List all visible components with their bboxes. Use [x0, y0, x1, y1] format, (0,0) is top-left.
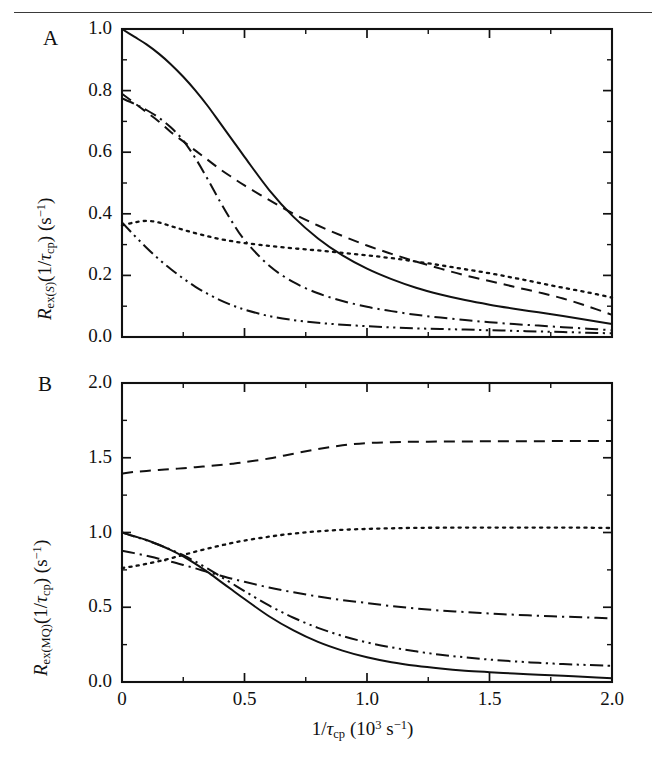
x-tick-label: 0 — [92, 688, 152, 710]
y-tick-label-a: 0.0 — [54, 325, 112, 347]
x-tick-label: 1.5 — [460, 688, 520, 710]
y-axis-label-panel-b: Rex(MQ)(1/τcp) (s−1) — [30, 540, 54, 676]
plot-frame — [122, 29, 612, 337]
y-tick-label-b: 1.0 — [54, 521, 112, 543]
x-tick-label: 0.5 — [215, 688, 275, 710]
y-tick-label-b: 1.5 — [54, 446, 112, 468]
page-rule — [14, 12, 652, 13]
curve-dash-dot-dot — [122, 222, 612, 333]
curve-solid — [122, 29, 612, 324]
plot-frame — [122, 383, 612, 682]
curve-dash-dot — [122, 551, 612, 619]
y-tick-label-a: 0.8 — [54, 79, 112, 101]
y-tick-label-b: 2.0 — [54, 371, 112, 393]
x-tick-label: 1.0 — [337, 688, 397, 710]
y-tick-label-b: 0.5 — [54, 595, 112, 617]
y-tick-label-a: 0.4 — [54, 202, 112, 224]
x-axis-label: 1/τcp (103 s−1) — [0, 718, 665, 742]
panel-label-b: B — [38, 372, 52, 397]
panel-a-plot — [122, 29, 612, 337]
x-tick-label: 2.0 — [582, 688, 642, 710]
y-tick-label-a: 0.2 — [54, 263, 112, 285]
curve-dashed — [122, 441, 612, 473]
curve-dash-dot — [122, 98, 612, 330]
y-tick-label-a: 1.0 — [54, 17, 112, 39]
y-tick-label-a: 0.6 — [54, 140, 112, 162]
x-axis-label-text: 1/τcp (103 s−1) — [252, 718, 414, 742]
panel-b-plot — [122, 383, 612, 682]
curve-solid — [122, 533, 612, 679]
figure-container: A B Rex(S)(1/τcp) (s−1) Rex(MQ)(1/τcp) (… — [0, 0, 665, 768]
